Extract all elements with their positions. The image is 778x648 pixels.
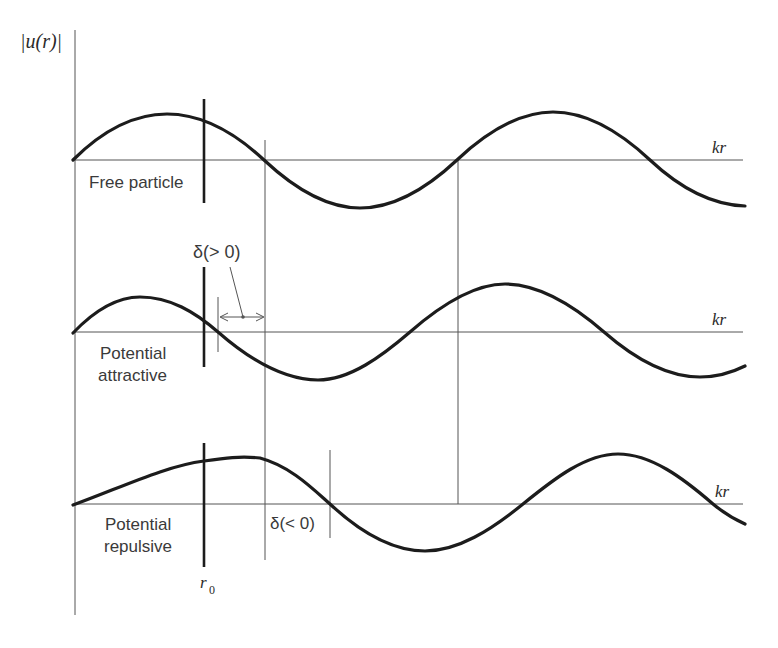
kr-label-repulsive: kr <box>715 482 730 501</box>
wave-repulsive <box>73 454 745 551</box>
label-attractive-line1: Potential <box>100 344 166 363</box>
label-repulsive-line1: Potential <box>105 515 171 534</box>
kr-label-free: kr <box>712 138 727 157</box>
delta-positive-leader <box>230 267 243 317</box>
label-free-particle: Free particle <box>89 173 183 192</box>
phase-shift-diagram: |u(r)| kr kr kr δ(> 0) δ(< 0) Free parti… <box>0 0 778 648</box>
kr-label-attractive: kr <box>712 310 727 329</box>
r0-label: r <box>200 573 207 592</box>
delta-positive-dimension <box>220 267 264 321</box>
delta-positive-label: δ(> 0) <box>193 242 241 262</box>
delta-negative-label: δ(< 0) <box>270 514 315 533</box>
label-attractive-line2: attractive <box>98 366 167 385</box>
r0-subscript: 0 <box>209 583 215 597</box>
label-repulsive-line2: repulsive <box>104 537 172 556</box>
y-axis-label: |u(r)| <box>20 30 62 53</box>
